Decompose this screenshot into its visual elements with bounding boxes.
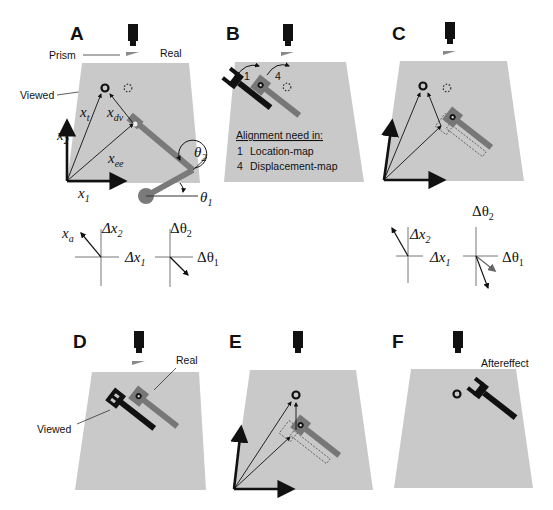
dx2-label: Δx2 (101, 220, 122, 239)
legend-num-1: 1 (237, 145, 243, 157)
dx1-label: Δx1 (124, 249, 145, 268)
prism-icon (281, 52, 294, 56)
real-label: Real (176, 354, 198, 366)
dth1-label: Δθ1 (197, 249, 219, 268)
legend-text-1: Location-map (250, 145, 314, 157)
camera-icon (445, 22, 455, 44)
dth2-label: Δθ2 (170, 220, 192, 239)
panel-f: F Aftereffect (392, 331, 533, 488)
viewed-label: Viewed (20, 89, 54, 101)
aftereffect-label: Aftereffect (481, 357, 529, 369)
step-1-label: 1 (244, 70, 250, 82)
dx1-label: Δx1 (429, 249, 450, 268)
panel-label-c: C (392, 23, 406, 44)
panel-label-f: F (392, 331, 404, 352)
camera-icon (283, 24, 293, 46)
panel-label-a: A (70, 23, 84, 44)
camera-icon (293, 331, 303, 353)
panel-d: D Real Viewed (37, 331, 206, 490)
legend-text-4: Displacement-map (250, 160, 338, 172)
legend-num-4: 4 (237, 160, 243, 172)
panel-a: A Prism Real Viewed θ2 θ1 x1 x2 xt (20, 23, 219, 287)
dth2-label: Δθ2 (472, 203, 494, 222)
prism-icon (132, 361, 145, 365)
prism-icon (126, 52, 139, 56)
viewed-label: Viewed (37, 423, 71, 435)
panel-label-e: E (229, 331, 242, 352)
real-label: Real (160, 47, 182, 59)
alignment-legend-title: Alignment need in: (236, 129, 323, 141)
panel-label-d: D (73, 331, 87, 352)
panel-c: C Δx2 Δx1 Δθ2 Δθ1 (383, 22, 524, 288)
x1-label: x1 (77, 185, 90, 204)
prism-label: Prism (49, 49, 76, 61)
panel-b: B 1 4 Alignment need in: 1 Location-map … (221, 23, 364, 182)
step-4-label: 4 (275, 70, 281, 82)
prism-icon (443, 51, 456, 55)
camera-icon (134, 331, 144, 353)
panel-label-b: B (226, 23, 240, 44)
theta1-label: θ1 (200, 189, 212, 208)
table-surface (394, 369, 533, 488)
dx2-label: Δx2 (409, 226, 430, 245)
dth1-label: Δθ1 (502, 249, 524, 268)
camera-icon (453, 331, 463, 353)
panel-e: E (229, 331, 373, 490)
camera-icon (128, 24, 138, 46)
figure-canvas: A Prism Real Viewed θ2 θ1 x1 x2 xt (0, 0, 553, 510)
xa-label: xa (61, 225, 74, 244)
